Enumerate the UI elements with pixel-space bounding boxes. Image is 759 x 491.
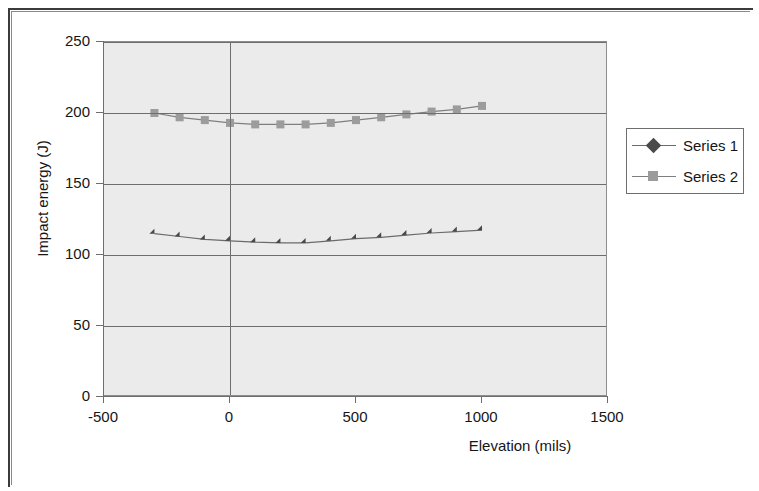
data-point-s1-1000: [477, 225, 482, 230]
x-tick-mark-1500: [607, 396, 608, 403]
y-tick-mark-250: [96, 41, 103, 42]
y-tick-mark-50: [96, 325, 103, 326]
gridline-x-0: [230, 42, 231, 395]
data-point-s2-300: [302, 120, 310, 128]
square-marker-icon: [648, 171, 658, 181]
data-point-s1--200: [175, 232, 180, 237]
legend-label-series-2: Series 2: [683, 168, 738, 186]
data-point-s1-100: [250, 237, 255, 242]
y-tick-mark-150: [96, 183, 103, 184]
x-tick-label-1000: 1000: [446, 409, 516, 425]
y-tick-mark-100: [96, 254, 103, 255]
data-point-s1-900: [452, 227, 457, 232]
gridline-y-50: [104, 326, 606, 327]
x-tick-label-0: 0: [194, 409, 264, 425]
data-point-s1-200: [275, 238, 280, 243]
y-tick-label-250: 250: [46, 33, 90, 48]
data-point-s1-800: [427, 228, 432, 233]
legend-swatch-series-1: [632, 131, 676, 161]
data-point-s2-500: [352, 116, 360, 124]
data-point-s2-100: [251, 120, 259, 128]
y-axis-title: Impact energy (J): [34, 109, 51, 289]
data-point-s2-800: [428, 108, 436, 116]
legend-entry-series-2[interactable]: Series 2: [627, 162, 743, 192]
data-point-s1-600: [376, 232, 381, 237]
gridline-y-150: [104, 184, 606, 185]
x-axis-title: Elevation (mils): [420, 437, 620, 454]
x-tick-label-1500: 1500: [572, 409, 642, 425]
data-point-s1-300: [301, 238, 306, 243]
chart-page: 050100150200250 -500050010001500 Impact …: [0, 0, 759, 491]
data-point-s2--200: [176, 113, 184, 121]
data-point-s2-200: [276, 120, 284, 128]
x-tick-label--500: -500: [68, 409, 138, 425]
data-point-s2-700: [402, 110, 410, 118]
legend-swatch-series-2: [632, 162, 676, 192]
data-point-s2-600: [377, 113, 385, 121]
line-chart: 050100150200250 -500050010001500 Impact …: [0, 0, 759, 491]
y-tick-mark-0: [96, 396, 103, 397]
y-tick-label-150: 150: [46, 175, 90, 190]
gridline-y-200: [104, 113, 606, 114]
x-tick-mark-0: [229, 396, 230, 403]
gridline-y-100: [104, 255, 606, 256]
x-tick-label-500: 500: [320, 409, 390, 425]
data-point-s1--100: [200, 234, 205, 239]
x-tick-mark-1000: [481, 396, 482, 403]
y-tick-label-200: 200: [46, 104, 90, 119]
legend-entry-series-1[interactable]: Series 1: [627, 131, 743, 161]
diamond-marker-icon: [646, 138, 662, 154]
chart-legend: Series 1 Series 2: [626, 128, 744, 194]
data-point-s2--100: [201, 116, 209, 124]
legend-label-series-1: Series 1: [683, 137, 738, 155]
y-tick-label-100: 100: [46, 246, 90, 261]
plot-area: [103, 41, 607, 396]
y-tick-label-50: 50: [46, 317, 90, 332]
data-point-s1-700: [401, 230, 406, 235]
series-layer: [104, 42, 608, 397]
x-tick-mark-500: [355, 396, 356, 403]
data-point-s2-400: [327, 119, 335, 127]
y-tick-mark-200: [96, 112, 103, 113]
data-point-s1-400: [326, 236, 331, 241]
data-point-s1-500: [351, 234, 356, 239]
data-point-s2-1000: [478, 102, 486, 110]
y-axis-line: [103, 41, 104, 397]
data-point-s1--300: [149, 229, 154, 234]
x-tick-mark--500: [103, 396, 104, 403]
y-tick-label-0: 0: [46, 388, 90, 403]
gridline-y-250: [104, 42, 606, 43]
